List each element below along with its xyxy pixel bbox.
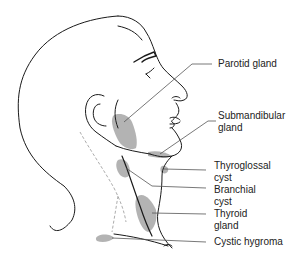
hair-line — [118, 26, 142, 40]
leader-submandibular — [160, 121, 216, 154]
leader-thyroglossal — [164, 169, 206, 170]
ear-outline — [85, 94, 116, 146]
label-parotid-gland: Parotid gland — [218, 58, 277, 70]
branchial-region — [116, 159, 130, 177]
label-line: gland — [214, 220, 247, 232]
label-line: cyst — [214, 196, 256, 208]
label-line: cyst — [214, 172, 271, 184]
label-line: Thyroid — [214, 208, 247, 220]
label-submandibular-gland: Submandibular gland — [218, 110, 285, 134]
neck-lumps-diagram: Parotid gland Submandibular gland Thyrog… — [0, 0, 300, 262]
label-cystic-hygroma: Cystic hygroma — [214, 236, 283, 248]
leader-thyroid — [152, 213, 206, 214]
cystic-hygroma-region — [96, 235, 114, 242]
shaded-regions — [96, 114, 172, 242]
label-thyroid-gland: Thyroid gland — [214, 208, 247, 232]
label-branchial-cyst: Branchial cyst — [214, 184, 256, 208]
label-line: Submandibular — [218, 110, 285, 122]
label-thyroglossal-cyst: Thyroglossal cyst — [214, 160, 271, 184]
label-line: Cystic hygroma — [214, 236, 283, 248]
leader-cystic — [112, 238, 206, 242]
label-line: Branchial — [214, 184, 256, 196]
label-line: Parotid gland — [218, 58, 277, 70]
label-line: gland — [218, 122, 285, 134]
label-line: Thyroglossal — [214, 160, 271, 172]
